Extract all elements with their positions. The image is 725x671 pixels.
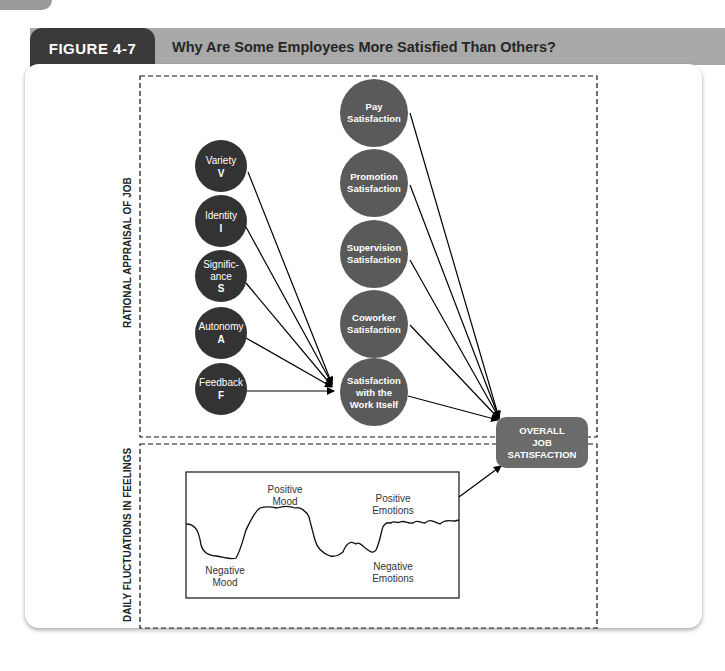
svg-text:SATISFACTION: SATISFACTION [508, 449, 577, 460]
svg-text:ance: ance [210, 271, 232, 282]
characteristic-arrows [246, 172, 334, 391]
svg-text:Satisfaction: Satisfaction [347, 113, 401, 124]
svg-text:OVERALL: OVERALL [519, 425, 565, 436]
facet-promotion: Promotion Satisfaction [340, 149, 408, 217]
svg-text:with the: with the [355, 387, 392, 398]
svg-text:Variety: Variety [206, 155, 236, 166]
svg-text:A: A [217, 334, 224, 345]
svg-text:Supervision: Supervision [347, 242, 402, 253]
diagram-canvas: RATIONAL APPRAISAL OF JOB DAILY FLUCTUAT… [0, 0, 725, 671]
svg-text:Satisfaction: Satisfaction [347, 254, 401, 265]
svg-text:Satisfaction: Satisfaction [347, 183, 401, 194]
svg-text:Negative: Negative [205, 565, 245, 576]
characteristic-feedback: Feedback F [195, 363, 247, 415]
svg-text:Mood: Mood [272, 496, 297, 507]
svg-text:Emotions: Emotions [372, 505, 414, 516]
svg-text:S: S [218, 283, 225, 294]
svg-text:Signific-: Signific- [203, 259, 239, 270]
characteristic-autonomy: Autonomy A [195, 307, 247, 359]
svg-text:Satisfaction: Satisfaction [347, 324, 401, 335]
svg-text:V: V [218, 168, 225, 179]
overall-job-satisfaction: OVERALL JOB SATISFACTION [496, 417, 588, 468]
svg-text:Positive: Positive [375, 493, 410, 504]
svg-text:Pay: Pay [366, 101, 384, 112]
facet-arrows [408, 113, 501, 497]
svg-text:Emotions: Emotions [372, 573, 414, 584]
facet-supervision: Supervision Satisfaction [340, 220, 408, 288]
svg-text:Satisfaction: Satisfaction [347, 375, 401, 386]
characteristic-significance: Signific- ance S [195, 250, 247, 302]
feelings-chart: Negative Mood Positive Mood Positive Emo… [186, 472, 459, 598]
svg-text:F: F [218, 390, 224, 401]
svg-text:Promotion: Promotion [350, 171, 398, 182]
svg-text:Feedback: Feedback [199, 377, 244, 388]
svg-text:Autonomy: Autonomy [198, 321, 243, 332]
svg-text:Coworker: Coworker [352, 312, 396, 323]
characteristic-identity: Identity I [195, 195, 247, 247]
svg-text:Negative: Negative [373, 561, 413, 572]
rational-label: RATIONAL APPRAISAL OF JOB [122, 177, 133, 328]
characteristic-variety: Variety V [195, 140, 247, 192]
svg-text:Positive: Positive [267, 484, 302, 495]
facet-pay: Pay Satisfaction [340, 79, 408, 147]
facet-coworker: Coworker Satisfaction [340, 290, 408, 358]
svg-text:I: I [220, 223, 223, 234]
daily-label: DAILY FLUCTUATIONS IN FEELINGS [122, 447, 133, 622]
facet-work-itself: Satisfaction with the Work Itself [340, 358, 408, 426]
svg-text:JOB: JOB [532, 437, 552, 448]
svg-text:Work Itself: Work Itself [350, 399, 399, 410]
svg-text:Identity: Identity [205, 210, 237, 221]
svg-text:Mood: Mood [212, 577, 237, 588]
